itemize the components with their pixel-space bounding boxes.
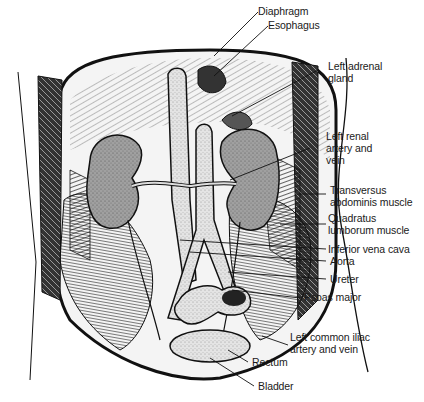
label-psoas-major: Psoas major: [304, 291, 361, 303]
bladder: [170, 330, 250, 362]
rectum-opening: [222, 290, 246, 306]
label-ureter: Ureter: [330, 273, 359, 285]
label-esophagus: Esophagus: [268, 19, 320, 31]
label-left-adrenal-gland: Left adrenal gland: [328, 60, 382, 84]
right-kidney: [87, 135, 142, 228]
left-body-outline: [18, 72, 36, 380]
label-diaphragm: Diaphragm: [258, 5, 308, 17]
anatomy-figure: Diaphragm Esophagus Left adrenal gland L…: [0, 0, 424, 402]
label-transversus-abdominis: Transversus abdominis muscle: [330, 184, 412, 208]
label-bladder: Bladder: [258, 380, 294, 392]
label-aorta: Aorta: [330, 255, 355, 267]
label-quadratus-lumborum: Quadratus lumborum muscle: [328, 212, 409, 236]
label-rectum: Rectum: [252, 356, 288, 368]
label-inferior-vena-cava: Inferior vena cava: [328, 243, 410, 255]
label-left-renal-artery-vein: Left renal artery and vein: [326, 130, 372, 166]
left-lateral-wall: [38, 76, 62, 300]
label-left-common-iliac: Left common iliac artery and vein: [290, 331, 370, 355]
